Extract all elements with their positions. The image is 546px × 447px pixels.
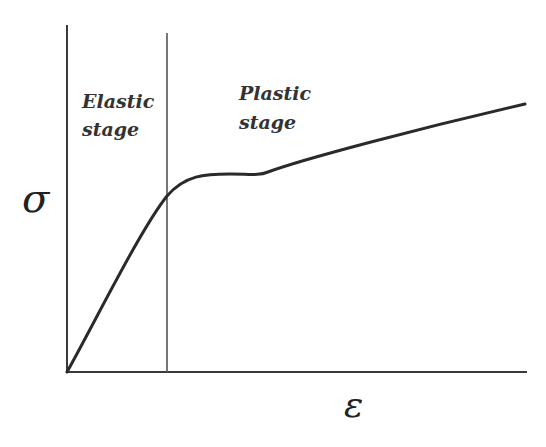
elastic-stage-label-line1: Elastic [81, 90, 155, 112]
plastic-stage-label-line1: Plastic [238, 82, 312, 104]
elastic-stage-label-line2: stage [81, 118, 139, 140]
stress-strain-diagram: Elastic stage Plastic stage σ ε [0, 0, 546, 447]
stress-strain-curve [67, 104, 525, 372]
x-axis-label-epsilon: ε [344, 384, 363, 425]
y-axis-label-sigma: σ [22, 175, 51, 221]
plastic-stage-label-line2: stage [238, 111, 296, 133]
